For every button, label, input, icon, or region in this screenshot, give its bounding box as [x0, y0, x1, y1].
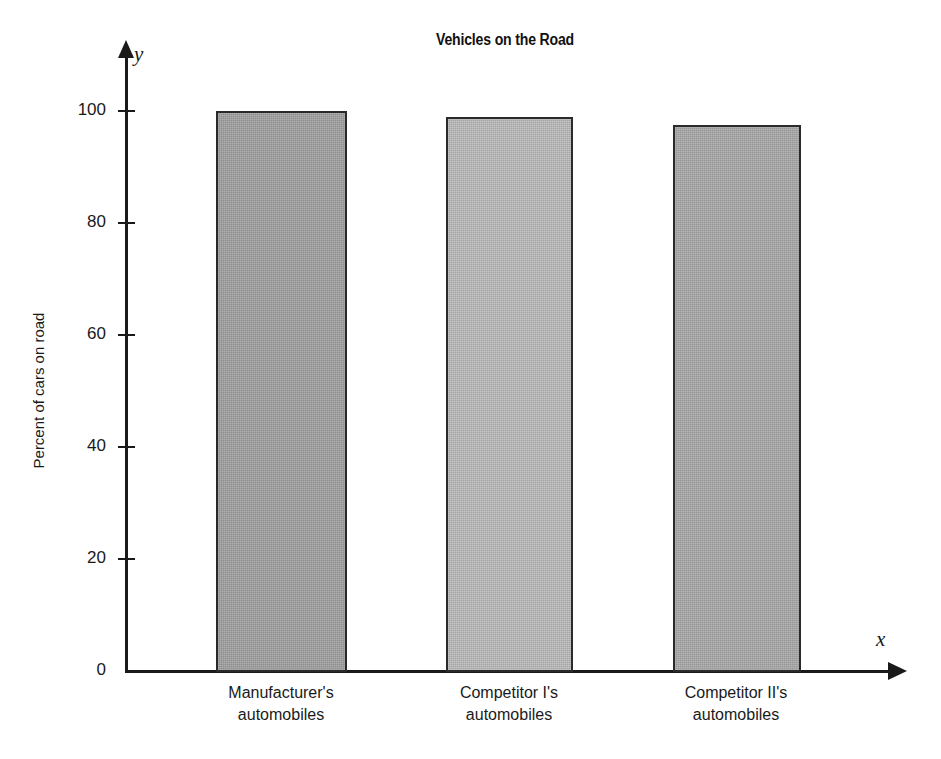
bar-manufacturers-automobiles — [216, 111, 347, 672]
category-label-line: automobiles — [616, 704, 856, 726]
y-tick-mark — [118, 334, 135, 336]
x-axis-variable-label: x — [876, 627, 885, 652]
y-tick-mark — [118, 110, 135, 112]
category-label-line: automobiles — [161, 704, 401, 726]
y-tick-mark — [118, 558, 135, 560]
y-tick-label-60: 60 — [46, 324, 106, 344]
category-label-line: Competitor II's — [616, 682, 856, 704]
y-axis-variable-label: y — [134, 42, 143, 67]
x-axis-arrow-icon — [888, 662, 907, 680]
y-tick-label-40: 40 — [46, 436, 106, 456]
category-label-line: automobiles — [389, 704, 629, 726]
category-label-1: Competitor I's automobiles — [389, 682, 629, 726]
y-tick-mark — [118, 446, 135, 448]
chart-title: Vehicles on the Road — [360, 31, 650, 49]
y-axis-arrow-icon — [118, 40, 134, 58]
y-axis-line — [125, 55, 128, 673]
category-label-line: Manufacturer's — [161, 682, 401, 704]
category-label-2: Competitor II's automobiles — [616, 682, 856, 726]
category-label-0: Manufacturer's automobiles — [161, 682, 401, 726]
y-tick-label-0: 0 — [46, 660, 106, 680]
y-tick-label-100: 100 — [46, 100, 106, 120]
y-axis-title: Percent of cars on road — [30, 291, 47, 491]
y-tick-label-80: 80 — [46, 212, 106, 232]
bar-competitor-ii-automobiles — [673, 125, 801, 672]
y-tick-mark — [118, 222, 135, 224]
y-tick-label-20: 20 — [46, 548, 106, 568]
bar-chart-figure: Vehicles on the Road y x Percent of cars… — [0, 0, 941, 759]
bar-competitor-i-automobiles — [446, 117, 573, 672]
category-label-line: Competitor I's — [389, 682, 629, 704]
